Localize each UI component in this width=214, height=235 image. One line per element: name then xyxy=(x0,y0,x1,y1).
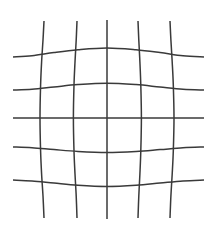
grid-canvas xyxy=(0,0,214,235)
distortion-grid-figure xyxy=(0,0,214,235)
